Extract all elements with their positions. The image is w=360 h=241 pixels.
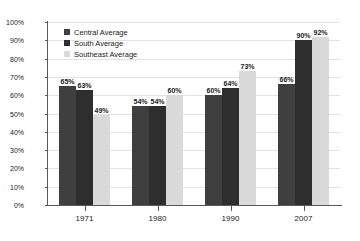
y-axis-tick-mark bbox=[45, 59, 48, 60]
y-axis-tick-mark bbox=[45, 150, 48, 151]
bar-group: 60%64%73% bbox=[205, 22, 256, 205]
x-axis-tick-mark bbox=[85, 206, 86, 211]
y-axis-tick-label: 20% bbox=[0, 165, 24, 172]
bar-value-label: 66% bbox=[279, 76, 293, 83]
y-axis-tick-mark bbox=[45, 168, 48, 169]
bar: 49% bbox=[93, 115, 110, 205]
bar: 63% bbox=[76, 90, 93, 205]
bar-group: 54%54%60% bbox=[132, 22, 183, 205]
legend-item: South Average bbox=[64, 38, 137, 48]
bar-value-label: 54% bbox=[133, 98, 147, 105]
y-axis-tick-mark bbox=[45, 114, 48, 115]
bar-value-label: 49% bbox=[94, 107, 108, 114]
bar: 54% bbox=[132, 106, 149, 205]
bar: 73% bbox=[239, 71, 256, 205]
y-axis-tick-mark bbox=[45, 95, 48, 96]
x-axis-tick-mark bbox=[231, 206, 232, 211]
x-axis-tick-mark bbox=[304, 206, 305, 211]
bar: 60% bbox=[205, 95, 222, 205]
y-axis-tick-label: 90% bbox=[0, 37, 24, 44]
bar-group: 66%90%92% bbox=[278, 22, 329, 205]
bar: 60% bbox=[166, 95, 183, 205]
legend-label: Southeast Average bbox=[74, 50, 137, 59]
legend: Central AverageSouth AverageSoutheast Av… bbox=[64, 27, 137, 60]
bar-value-label: 64% bbox=[223, 80, 237, 87]
bar: 90% bbox=[295, 40, 312, 205]
y-axis-tick-label: 60% bbox=[0, 92, 24, 99]
y-axis-tick-label: 0% bbox=[0, 202, 24, 209]
legend-label: Central Average bbox=[74, 28, 128, 37]
y-axis-tick-label: 40% bbox=[0, 129, 24, 136]
bar-value-label: 73% bbox=[240, 63, 254, 70]
bar-value-label: 63% bbox=[77, 82, 91, 89]
legend-swatch-icon bbox=[64, 29, 70, 35]
y-axis-tick-label: 70% bbox=[0, 74, 24, 81]
y-axis-tick-label: 80% bbox=[0, 56, 24, 63]
bar-value-label: 60% bbox=[167, 87, 181, 94]
bar-chart: Percent Minority 0%10%20%30%40%50%60%70%… bbox=[0, 0, 360, 241]
bar: 65% bbox=[59, 86, 76, 205]
legend-item: Central Average bbox=[64, 27, 137, 37]
y-axis-tick-label: 100% bbox=[0, 19, 24, 26]
bar-value-label: 60% bbox=[206, 87, 220, 94]
bar: 66% bbox=[278, 84, 295, 205]
y-axis-tick-mark bbox=[45, 205, 48, 206]
bar-value-label: 92% bbox=[313, 29, 327, 36]
y-axis-tick-label: 50% bbox=[0, 111, 24, 118]
legend-swatch-icon bbox=[64, 51, 70, 57]
x-axis-category-label: 1980 bbox=[128, 214, 188, 224]
x-axis-category-label: 2007 bbox=[274, 214, 334, 224]
bar: 64% bbox=[222, 88, 239, 205]
legend-label: South Average bbox=[74, 39, 123, 48]
bar-value-label: 54% bbox=[150, 98, 164, 105]
x-axis-line bbox=[47, 205, 342, 206]
x-axis-category-label: 1990 bbox=[201, 214, 261, 224]
legend-item: Southeast Average bbox=[64, 49, 137, 59]
bar-value-label: 90% bbox=[296, 32, 310, 39]
legend-swatch-icon bbox=[64, 40, 70, 46]
x-axis-category-label: 1971 bbox=[55, 214, 115, 224]
y-axis-tick-mark bbox=[45, 132, 48, 133]
y-axis-tick-mark bbox=[45, 187, 48, 188]
y-axis-tick-label: 30% bbox=[0, 147, 24, 154]
y-axis-tick-mark bbox=[45, 22, 48, 23]
y-axis-tick-mark bbox=[45, 40, 48, 41]
bar: 92% bbox=[312, 37, 329, 205]
x-axis-tick-mark bbox=[158, 206, 159, 211]
bar: 54% bbox=[149, 106, 166, 205]
bar-value-label: 65% bbox=[60, 78, 74, 85]
y-axis-tick-label: 10% bbox=[0, 184, 24, 191]
y-axis-tick-mark bbox=[45, 77, 48, 78]
